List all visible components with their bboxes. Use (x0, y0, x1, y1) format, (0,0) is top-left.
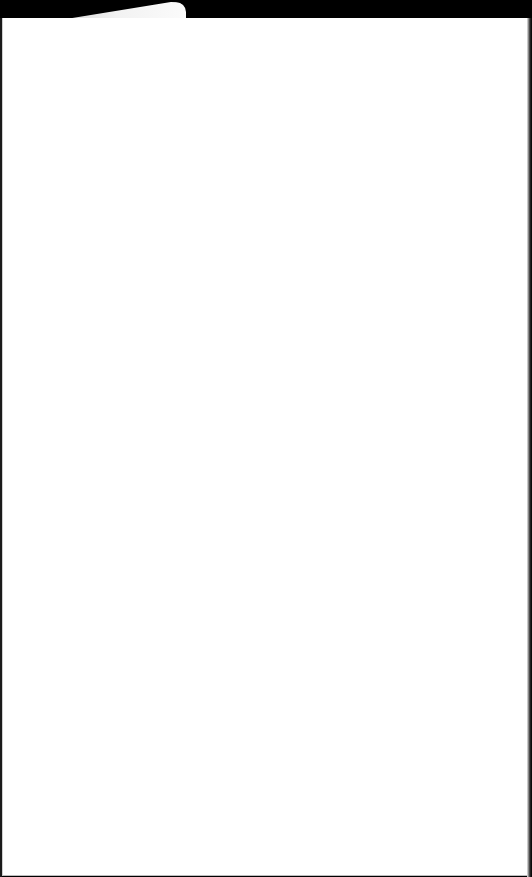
paper-right-edge (527, 18, 532, 877)
blank-paper-sheet (2, 18, 528, 876)
photo-frame (0, 0, 532, 877)
dark-background-band (0, 0, 532, 19)
